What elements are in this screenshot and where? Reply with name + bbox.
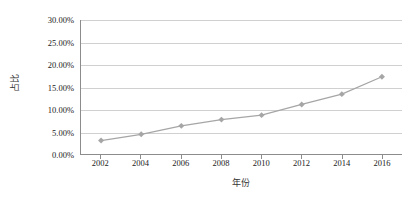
data-point-marker (379, 74, 385, 80)
x-tick-label: 2016 (373, 158, 390, 168)
y-tick-label: 0.00% (52, 150, 74, 160)
data-point-marker (178, 123, 184, 129)
y-tick-label: 15.00% (48, 83, 74, 93)
data-point-marker (218, 117, 224, 123)
data-point-marker (299, 101, 305, 107)
x-tick-label: 2002 (92, 158, 109, 168)
y-tick-label: 20.00% (48, 60, 74, 70)
x-tick-label: 2010 (253, 158, 270, 168)
x-axis-tick-labels: 20022004200620082010201220142016 (80, 158, 402, 174)
data-point-marker (339, 91, 345, 97)
x-tick-label: 2006 (172, 158, 189, 168)
y-tick-label: 30.00% (48, 15, 74, 25)
data-series-line (81, 20, 402, 154)
x-tick-label: 2008 (212, 158, 229, 168)
y-tick-label: 25.00% (48, 38, 74, 48)
series-line (101, 77, 382, 141)
x-tick-label: 2014 (333, 158, 350, 168)
y-axis-title-label: 占比 (8, 73, 21, 92)
x-tick-label: 2004 (132, 158, 149, 168)
x-tick-label: 2012 (293, 158, 310, 168)
plot-area (80, 20, 402, 155)
y-axis-tick-labels: 0.00%5.00%10.00%15.00%20.00%25.00%30.00% (20, 0, 78, 165)
x-axis-title: 年份 (80, 176, 402, 189)
data-point-marker (138, 131, 144, 137)
data-point-marker (98, 138, 104, 144)
data-point-marker (259, 112, 265, 118)
y-tick-label: 10.00% (48, 105, 74, 115)
y-tick-label: 5.00% (52, 128, 74, 138)
line-chart-figure: 占比 0.00%5.00%10.00%15.00%20.00%25.00%30.… (0, 0, 413, 203)
